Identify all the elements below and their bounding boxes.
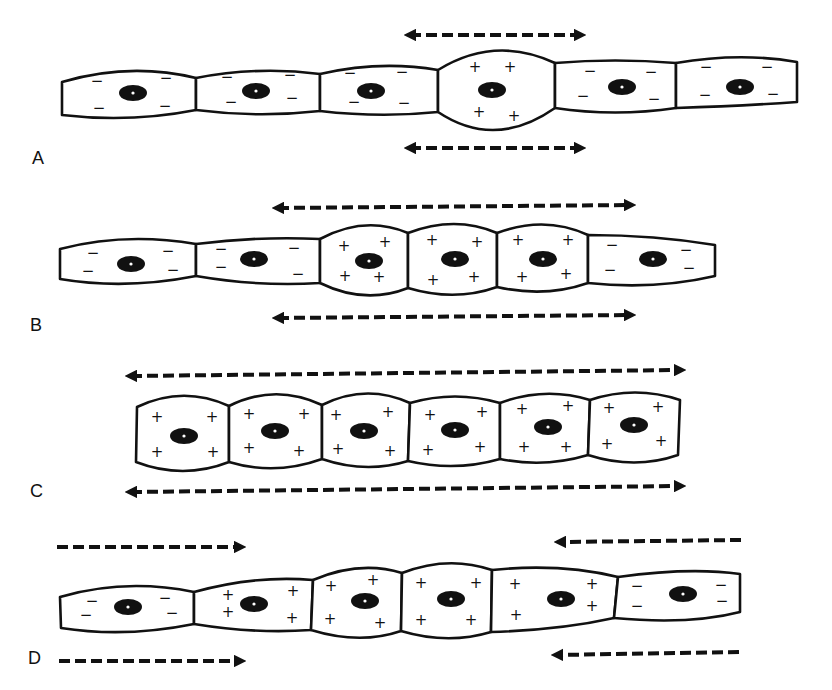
svg-text:−: − bbox=[680, 241, 693, 259]
svg-text:+: + bbox=[470, 574, 483, 592]
panel-label-d: D bbox=[28, 648, 41, 668]
svg-text:−: − bbox=[215, 258, 228, 276]
svg-text:−: − bbox=[159, 97, 172, 115]
svg-text:+: + bbox=[324, 610, 337, 628]
svg-text:+: + bbox=[509, 575, 522, 593]
svg-text:−: − bbox=[288, 239, 301, 257]
svg-text:+: + bbox=[287, 582, 300, 600]
cell-chain: −− −− −− −− ++ ++ ++ ++ ++ ++ −− −− bbox=[60, 224, 715, 295]
panel-b: −− −− −− −− ++ ++ ++ ++ ++ ++ −− −− B bbox=[30, 205, 715, 335]
svg-text:−: − bbox=[716, 592, 729, 610]
svg-text:−: − bbox=[606, 236, 619, 254]
nucleolus-icon bbox=[632, 423, 635, 426]
svg-text:+: + bbox=[473, 103, 486, 121]
svg-text:−: − bbox=[396, 63, 409, 81]
nucleolus-icon bbox=[453, 257, 456, 260]
panel-label-a: A bbox=[32, 148, 44, 168]
svg-text:−: − bbox=[82, 262, 95, 280]
svg-text:+: + bbox=[655, 432, 668, 450]
svg-text:−: − bbox=[221, 68, 234, 86]
svg-text:−: − bbox=[93, 99, 106, 117]
svg-text:+: + bbox=[422, 441, 435, 459]
svg-text:+: + bbox=[465, 611, 478, 629]
svg-text:+: + bbox=[415, 611, 428, 629]
svg-text:−: − bbox=[215, 240, 228, 258]
svg-text:−: − bbox=[648, 90, 661, 108]
svg-text:+: + bbox=[373, 268, 386, 286]
svg-text:+: + bbox=[298, 405, 311, 423]
cell-chain-diagram: −− −− −− −− −− −− ++ ++ −− −− −− −− A bbox=[0, 0, 832, 690]
svg-text:+: + bbox=[222, 586, 235, 604]
svg-text:−: − bbox=[700, 58, 713, 76]
svg-text:−: − bbox=[645, 63, 658, 81]
svg-text:+: + bbox=[243, 439, 256, 457]
nucleolus-icon bbox=[126, 605, 129, 608]
svg-text:+: + bbox=[286, 609, 299, 627]
svg-text:−: − bbox=[286, 89, 299, 107]
nucleolus-icon bbox=[369, 89, 372, 92]
nucleolus-icon bbox=[131, 91, 134, 94]
nucleolus-icon bbox=[129, 262, 132, 265]
bidirectional-dashed-arrow-icon bbox=[131, 486, 680, 492]
nucleolus-icon bbox=[490, 88, 493, 91]
nucleolus-icon bbox=[273, 429, 276, 432]
svg-text:+: + bbox=[560, 265, 573, 283]
nucleolus-icon bbox=[620, 85, 623, 88]
svg-text:−: − bbox=[344, 64, 357, 82]
svg-text:+: + bbox=[474, 438, 487, 456]
svg-text:+: + bbox=[339, 267, 352, 285]
bidirectional-dashed-arrow-icon bbox=[131, 370, 680, 376]
svg-text:+: + bbox=[562, 231, 575, 249]
nucleolus-icon bbox=[254, 89, 257, 92]
svg-text:+: + bbox=[338, 237, 351, 255]
cell-chain: −− −− ++ ++ ++ ++ ++ ++ ++ ++ −− −− bbox=[60, 563, 740, 638]
nucleolus-icon bbox=[449, 597, 452, 600]
bidirectional-dashed-arrow-icon bbox=[278, 315, 630, 318]
svg-text:+: + bbox=[415, 574, 428, 592]
left-dashed-arrow-icon bbox=[560, 540, 741, 542]
svg-text:+: + bbox=[468, 268, 481, 286]
svg-text:+: + bbox=[367, 571, 380, 589]
svg-text:−: − bbox=[80, 606, 93, 624]
svg-text:−: − bbox=[761, 58, 774, 76]
nucleolus-icon bbox=[182, 434, 185, 437]
svg-text:+: + bbox=[516, 268, 529, 286]
svg-text:+: + bbox=[510, 606, 523, 624]
panel-label-b: B bbox=[30, 315, 42, 335]
svg-text:+: + bbox=[586, 597, 599, 615]
svg-text:−: − bbox=[160, 69, 173, 87]
svg-text:+: + bbox=[379, 233, 392, 251]
cell-chain: −− −− −− −− −− −− ++ ++ −− −− −− −− bbox=[62, 51, 797, 130]
svg-text:+: + bbox=[330, 406, 343, 424]
svg-text:−: − bbox=[87, 244, 100, 262]
cell-chain: ++ ++ ++ ++ ++ ++ ++ ++ ++ ++ ++ ++ bbox=[136, 393, 680, 472]
panel-a: −− −− −− −− −− −− ++ ++ −− −− −− −− A bbox=[32, 35, 797, 168]
svg-text:+: + bbox=[332, 440, 345, 458]
svg-text:+: + bbox=[518, 438, 531, 456]
left-dashed-arrow-icon bbox=[557, 652, 739, 655]
svg-text:+: + bbox=[586, 575, 599, 593]
svg-text:−: − bbox=[284, 66, 297, 84]
svg-text:+: + bbox=[222, 603, 235, 621]
svg-text:−: − bbox=[631, 577, 644, 595]
svg-text:−: − bbox=[767, 85, 780, 103]
bidirectional-dashed-arrow-icon bbox=[278, 205, 630, 208]
nucleolus-icon bbox=[363, 599, 366, 602]
svg-text:+: + bbox=[476, 403, 489, 421]
svg-text:−: − bbox=[631, 597, 644, 615]
svg-text:−: − bbox=[167, 261, 180, 279]
svg-text:−: − bbox=[577, 87, 590, 105]
svg-text:+: + bbox=[243, 405, 256, 423]
svg-text:−: − bbox=[292, 265, 305, 283]
svg-text:−: − bbox=[348, 93, 361, 111]
svg-text:+: + bbox=[206, 408, 219, 426]
svg-text:+: + bbox=[562, 397, 575, 415]
nucleolus-icon bbox=[453, 428, 456, 431]
svg-text:+: + bbox=[508, 107, 521, 125]
svg-text:−: − bbox=[398, 94, 411, 112]
panel-d: −− −− ++ ++ ++ ++ ++ ++ ++ ++ −− −− D bbox=[28, 540, 741, 668]
svg-text:+: + bbox=[652, 398, 665, 416]
svg-text:+: + bbox=[560, 438, 573, 456]
svg-text:+: + bbox=[151, 408, 164, 426]
svg-text:+: + bbox=[603, 399, 616, 417]
